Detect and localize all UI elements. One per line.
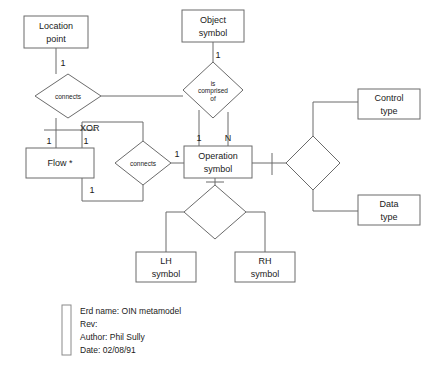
diagram.entities.2.lines-line: type: [380, 106, 397, 116]
diagram.entities.4.lines-line: Operation: [198, 151, 238, 161]
legend-line: Rev:: [80, 319, 97, 329]
diagram.relationships.2.lines-line: connects: [130, 160, 157, 167]
relationship-operation-types: [286, 136, 340, 190]
relationship-diamond-shape: [184, 185, 246, 239]
constraint-labels-group: XOR: [80, 123, 100, 133]
entity-operation-symbol: Operationsymbol: [184, 146, 252, 178]
relationship-operation-hands: [184, 185, 246, 239]
cardinality-card-location-connects: 1: [60, 58, 65, 68]
entity-flow: Flow *: [26, 148, 94, 178]
cardinality-card-flow-connects: 1: [89, 185, 94, 195]
connector-handsdiamond-to-rh: [246, 212, 265, 252]
entity-rh-symbol: RHsymbol: [235, 252, 295, 282]
entity-boxes-group: LocationpointObjectsymbolControltypeFlow…: [24, 10, 420, 282]
diagram.entities.5.lines-line: type: [380, 212, 397, 222]
entity-location-point: Locationpoint: [24, 16, 88, 48]
relationship-connects-flow-operation: connects: [115, 141, 171, 185]
erd-canvas: connectsiscomprisedofconnects Locationpo…: [0, 0, 441, 367]
cardinality-card-operation-connects: 1: [174, 149, 179, 159]
diagram.entities.7.lines-line: symbol: [251, 269, 280, 279]
diagram.relationships.0.lines-line: connects: [55, 93, 82, 100]
legend-side-bar: [62, 305, 71, 355]
cardinality-card-object-comprised: 1: [215, 50, 220, 60]
entity-control-type: Controltype: [358, 89, 420, 119]
diagram.entities.1.lines-line: symbol: [199, 28, 228, 38]
connector-typesdiamond-to-control: [313, 102, 358, 136]
legend-line: Date: 02/08/91: [80, 345, 136, 355]
diagram.entities.0.lines-line: Location: [39, 21, 73, 31]
diagram.entities.7.lines-line: RH: [259, 256, 272, 266]
diagram.relationships.1.lines-line: of: [210, 95, 216, 102]
connector-typesdiamond-to-data: [313, 190, 358, 211]
entity-object-symbol: Objectsymbol: [182, 10, 244, 42]
relationship-diamond-shape: [286, 136, 340, 190]
connector-handsdiamond-to-lh: [166, 212, 184, 252]
erd-diagram: connectsiscomprisedofconnects Locationpo…: [0, 0, 441, 367]
diagram.entities.4.lines-line: symbol: [204, 164, 233, 174]
diagram.entities.2.lines-line: Control: [374, 93, 403, 103]
legend-line: Erd name: OIN metamodel: [80, 306, 181, 316]
constraint-xor-constraint: XOR: [80, 123, 100, 133]
cardinality-card-flow-xor-right: 1: [83, 136, 88, 146]
diagram.entities.6.lines-line: symbol: [152, 269, 181, 279]
cardinality-card-comprised-right: N: [225, 133, 232, 143]
diagram.entities.6.lines-line: LH: [160, 256, 172, 266]
entity-lh-symbol: LHsymbol: [136, 252, 196, 282]
relationship-is-comprised-of: iscomprisedof: [183, 62, 243, 118]
diagram.entities.3.lines-line: Flow *: [47, 158, 73, 168]
entity-data-type: Datatype: [358, 195, 420, 225]
legend-block: Erd name: OIN metamodelRev:Author: Phil …: [62, 305, 181, 355]
diagram.relationships.1.lines-line: is: [211, 80, 216, 87]
diagram.entities.0.lines-line: point: [46, 34, 66, 44]
relationship-connects-location-flow: connects: [35, 74, 101, 118]
cardinality-card-comprised-left: 1: [196, 133, 201, 143]
cardinality-card-flow-xor-left: 1: [46, 136, 51, 146]
diagram.entities.1.lines-line: Object: [200, 15, 227, 25]
diagram.entities.5.lines-line: Data: [379, 199, 398, 209]
legend-line: Author: Phil Sully: [80, 332, 145, 342]
